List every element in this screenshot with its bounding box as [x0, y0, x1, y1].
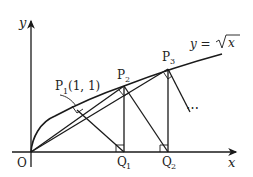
svg-text:1: 1 — [126, 162, 131, 171]
svg-text:2: 2 — [125, 75, 130, 84]
segment-O-P2 — [31, 86, 124, 152]
label-Q2: Q 2 — [162, 155, 176, 171]
ellipsis: ⋯ — [186, 100, 199, 115]
segment-P1-Q1 — [77, 110, 124, 152]
curve-label: y = x — [189, 35, 240, 51]
svg-text:P: P — [162, 50, 170, 64]
origin-label: O — [17, 156, 27, 170]
svg-text:2: 2 — [171, 162, 176, 171]
svg-text:P: P — [55, 79, 63, 93]
label-P1: P 1 (1, 1) — [55, 79, 100, 96]
svg-text:x: x — [228, 36, 235, 50]
y-axis-label: y — [18, 15, 27, 30]
segment-P2-Q2 — [124, 86, 168, 152]
label-Q1: Q 1 — [117, 155, 131, 171]
sqrt-curve-diagram: y x O y = x P 1 (1, 1) P 2 P 3 Q 1 Q 2 ⋯ — [0, 0, 253, 177]
svg-text:3: 3 — [170, 57, 175, 66]
label-P3: P 3 — [162, 50, 175, 66]
svg-text:P: P — [117, 68, 125, 82]
leader-arrow-P1 — [60, 95, 76, 106]
svg-text:y =: y = — [189, 37, 211, 51]
svg-text:(1, 1): (1, 1) — [68, 79, 100, 93]
x-axis-label: x — [228, 155, 236, 170]
label-P2: P 2 — [117, 68, 130, 84]
